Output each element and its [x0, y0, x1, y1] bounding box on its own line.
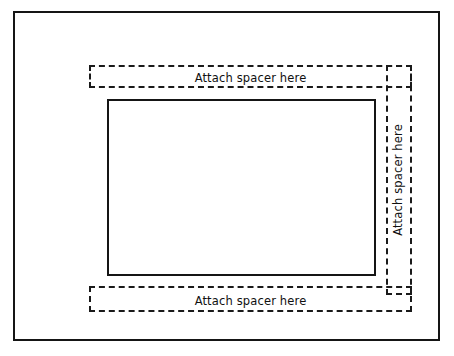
spacer-region-bottom: Attach spacer here: [89, 286, 412, 312]
diagram-canvas: Attach spacer here Attach spacer here At…: [0, 0, 454, 356]
spacer-region-top: Attach spacer here: [89, 65, 412, 88]
inner-opening-rectangle: [107, 99, 376, 276]
spacer-label-right: Attach spacer here: [393, 124, 405, 236]
outer-frame-rectangle: Attach spacer here Attach spacer here At…: [13, 11, 440, 341]
spacer-region-right: Attach spacer here: [386, 65, 412, 295]
spacer-label-top: Attach spacer here: [91, 73, 410, 85]
spacer-label-bottom: Attach spacer here: [91, 296, 410, 308]
